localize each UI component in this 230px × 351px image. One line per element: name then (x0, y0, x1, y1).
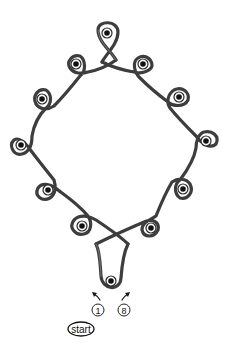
eyelet-top (102, 28, 112, 38)
eyelet-right-3 (201, 136, 211, 146)
eyelet-left-1 (71, 59, 81, 69)
eyelet-left-4 (43, 185, 53, 195)
eyelet-right-5 (146, 223, 156, 233)
eyelet-left-2 (37, 94, 47, 104)
eyelet-right-1 (138, 59, 148, 69)
eyelet-right-4 (178, 184, 188, 194)
svg-text:start: start (71, 324, 91, 335)
eyelet-left-3 (16, 140, 26, 150)
svg-text:1: 1 (95, 306, 100, 316)
svg-text:8: 8 (121, 306, 126, 316)
start-label: start (68, 322, 94, 336)
step-label-last: 8 (118, 304, 130, 316)
eyelet-bottom (106, 276, 116, 286)
step-label-first: 1 (92, 304, 104, 316)
eyelet-right-2 (174, 92, 184, 102)
direction-arrows (92, 292, 130, 300)
eyelet-left-5 (77, 221, 87, 231)
cord (12, 23, 218, 288)
lacing-diagram: 1 8 start (0, 0, 230, 351)
